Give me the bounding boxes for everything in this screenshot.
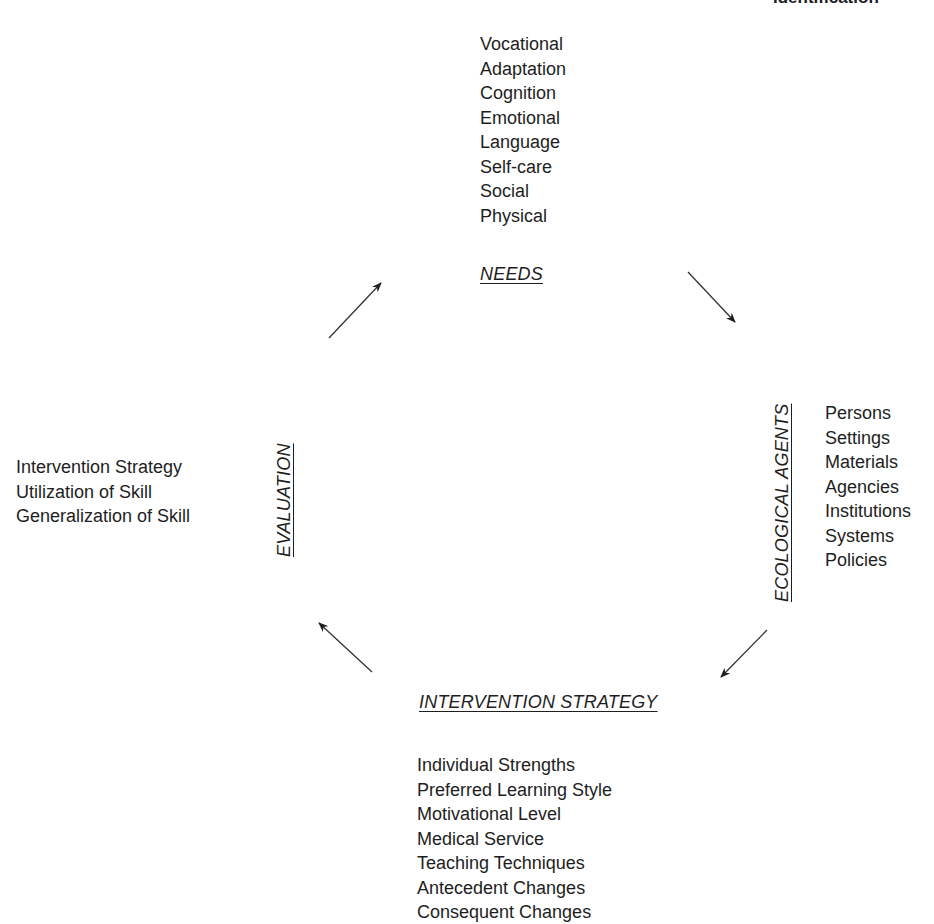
- arrow-intervention-to-evaluation-icon: [319, 623, 372, 672]
- arrow-ecological-to-intervention-icon: [721, 630, 767, 677]
- arrow-needs-to-ecological-icon: [688, 272, 735, 322]
- arrow-evaluation-to-needs-icon: [329, 283, 381, 338]
- cycle-arrows: [0, 0, 934, 924]
